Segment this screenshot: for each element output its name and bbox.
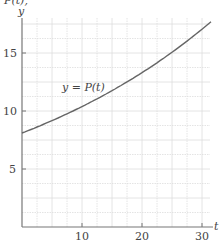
x-axis-label: t xyxy=(214,220,219,233)
svg-text:10: 10 xyxy=(3,105,17,118)
svg-text:30: 30 xyxy=(195,230,209,243)
y-axis-label: y xyxy=(17,5,25,18)
curve-annotation: y = P(t) xyxy=(61,81,105,94)
svg-text:10: 10 xyxy=(75,230,89,243)
svg-text:5: 5 xyxy=(9,163,16,176)
svg-text:20: 20 xyxy=(135,230,149,243)
ticks: 10203051015 xyxy=(3,47,209,243)
chart: 10203051015 P(t), y t y = P(t) xyxy=(0,0,223,243)
svg-text:15: 15 xyxy=(3,47,17,60)
grid xyxy=(22,18,210,227)
